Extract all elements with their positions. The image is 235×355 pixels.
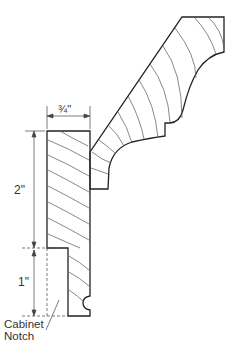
width-dimension-label: ¾" (58, 104, 71, 115)
cabinet-notch-label: Cabinet Notch (4, 318, 44, 342)
cabinet-notch-label-line1: Cabinet (4, 318, 44, 330)
notch-height-dimension-label: 1" (18, 276, 29, 288)
crown-molding (90, 17, 224, 189)
cabinet-notch-label-line2: Notch (4, 330, 44, 342)
backer-board (47, 131, 90, 316)
upper-height-dimension-label: 2" (14, 184, 25, 196)
molding-diagram (0, 0, 235, 355)
crown-grain (91, 17, 224, 174)
dimension-lines (22, 106, 90, 330)
